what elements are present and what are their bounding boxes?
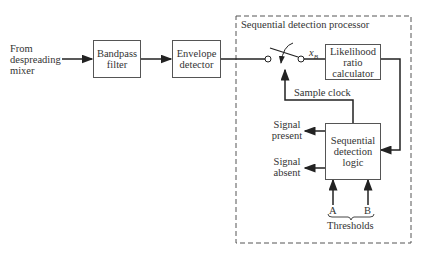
block-label: ratio <box>330 57 376 68</box>
block-label: Sequential <box>331 135 375 146</box>
block-label: logic <box>331 157 375 168</box>
signal-present-label: Signal present <box>270 119 304 141</box>
block-label: Envelope <box>177 48 217 59</box>
input-label-line: mixer <box>10 65 61 76</box>
threshold-a-label: A <box>329 205 337 216</box>
signal-absent-label: Signal absent <box>270 156 304 178</box>
envelope-detector-block: Envelope detector <box>172 40 221 78</box>
input-label-line: despreading <box>10 54 61 65</box>
sample-clock-label: Sample clock <box>294 87 351 98</box>
block-label: detector <box>177 59 217 70</box>
block-label: Bandpass <box>97 48 137 59</box>
likelihood-ratio-calculator-block: Likelihood ratio calculator <box>325 44 381 80</box>
output-label-line: present <box>270 130 304 141</box>
threshold-b-label: B <box>364 205 371 216</box>
block-label: Likelihood <box>330 46 376 57</box>
input-label-line: From <box>10 43 61 54</box>
input-label: From despreading mixer <box>10 43 61 76</box>
output-label-line: Signal <box>270 156 304 167</box>
xb-subscript: B <box>314 53 318 61</box>
bandpass-filter-block: Bandpass filter <box>93 40 141 78</box>
switch-output-label: xB <box>309 47 318 63</box>
thresholds-label: Thresholds <box>327 220 374 231</box>
processor-title: Sequential detection processor <box>241 19 369 30</box>
output-label-line: Signal <box>270 119 304 130</box>
block-label: detection <box>331 146 375 157</box>
output-label-line: absent <box>270 167 304 178</box>
block-label: calculator <box>330 68 376 79</box>
sequential-detection-logic-block: Sequential detection logic <box>325 123 381 180</box>
block-label: filter <box>97 59 137 70</box>
processor-boundary <box>236 16 411 243</box>
